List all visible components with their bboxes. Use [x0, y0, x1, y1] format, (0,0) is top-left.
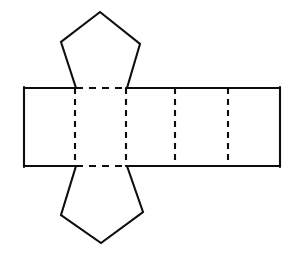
- pentagonal-prism-net-diagram: [0, 0, 297, 253]
- lateral-strip-fill: [24, 88, 280, 166]
- figure-root: [0, 0, 297, 253]
